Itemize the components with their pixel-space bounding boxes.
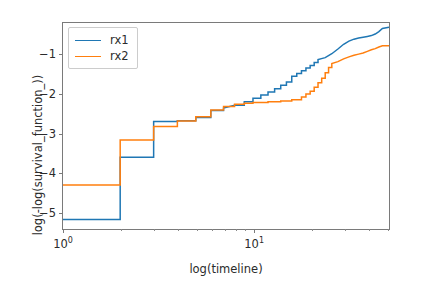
y-tick-label: −3: [39, 127, 56, 141]
legend-label: rx1: [110, 33, 129, 47]
x-tick-minor: [345, 229, 346, 231]
x-tick-minor: [178, 229, 179, 231]
x-tick-mark: [254, 229, 255, 233]
x-tick-minor: [121, 229, 122, 231]
legend: rx1rx2: [68, 27, 138, 69]
x-tick-minor: [225, 229, 226, 231]
y-tick-mark: [59, 94, 63, 95]
legend-label: rx2: [110, 49, 129, 63]
y-tick-mark: [59, 54, 63, 55]
legend-entry-rx1: rx1: [75, 32, 129, 48]
x-tick-minor: [154, 229, 155, 231]
y-tick-label: −4: [39, 166, 56, 180]
x-tick-minor: [369, 229, 370, 231]
x-tick-mark: [63, 229, 64, 233]
y-tick-mark: [59, 134, 63, 135]
y-tick-mark: [59, 213, 63, 214]
x-axis-label: log(timeline): [62, 262, 390, 276]
x-tick-minor: [245, 229, 246, 231]
y-tick-mark: [59, 173, 63, 174]
legend-swatch-icon: [75, 56, 101, 57]
x-tick-minor: [197, 229, 198, 231]
y-tick-label: −5: [39, 206, 56, 220]
x-tick-minor: [236, 229, 237, 231]
y-axis-label: log(-log(survival_function_)): [31, 51, 45, 259]
plot-axes: −1−2−3−4−5 100101 rx1rx2: [62, 22, 390, 230]
legend-entry-rx2: rx2: [75, 48, 129, 64]
x-tick-minor: [312, 229, 313, 231]
x-tick-minor: [388, 229, 389, 231]
figure: log(-log(survival_function_)) −1−2−3−4−5…: [0, 0, 422, 295]
legend-swatch-icon: [75, 40, 101, 41]
x-tick-label: 100: [53, 236, 73, 251]
x-tick-label: 101: [244, 236, 264, 251]
x-tick-minor: [212, 229, 213, 231]
y-tick-label: −1: [39, 47, 56, 61]
y-tick-label: −2: [39, 87, 56, 101]
